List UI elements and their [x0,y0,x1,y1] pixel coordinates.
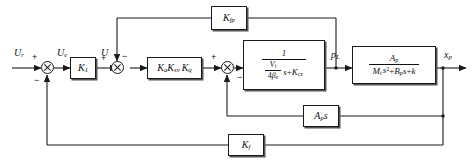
block-diagram: + − + − + − Ur Ue U pL xp K1 KaKsv Kq 1 … [0,0,472,163]
signal-label-u: U [101,48,108,58]
gain-ksv: K [167,62,174,73]
block-kfp-label: Kfp [223,13,235,24]
hydraulic-fraction: 1 Vt 4βe s+Kce [262,49,306,80]
gain-ksv-sub: sv [174,66,180,73]
mech-ap-sub: p [395,57,398,63]
hyd-kce-sub: ce [298,71,303,77]
signal-ue-sub: e [64,51,67,58]
block-kfp-feedback[interactable]: Kfp [211,6,247,30]
gain-kq-sub: q [188,66,191,73]
block-kfp-sub: fp [230,16,235,23]
block-k1-name: K [78,62,85,73]
node-xp-tap [441,66,444,69]
mech-k: k [412,65,416,75]
summing-junction-3 [221,61,234,74]
block-hydraulic-transfer-function[interactable]: 1 Vt 4βe s+Kce [243,40,325,90]
block-mechanical-transfer-function[interactable]: Ap Mts2+Bps+k [352,46,436,84]
block-k1-label: K1 [78,63,88,74]
block-k1-sub: 1 [85,66,88,73]
signal-label-ue: Ue [57,48,67,59]
block-servo-gain-label: KaKsv Kq [157,63,192,74]
block-aps-feedback[interactable]: Aps [303,105,339,127]
mechanical-numerator: Ap [369,54,418,65]
node-kf-tap [441,114,444,117]
signal-pl-sub: L [336,53,340,60]
block-kf-label: Kf [242,140,251,151]
block-servo-gain[interactable]: KaKsv Kq [147,57,202,79]
signal-label-xp: xp [444,50,452,61]
hydraulic-inner-den: 4βe [265,71,281,81]
summing-junction-2 [111,61,124,74]
mechanical-denominator: Mts2+Bps+k [369,65,418,77]
mech-mt-sub: t [380,70,382,76]
hydraulic-inner-fraction: Vt 4βe [265,61,281,81]
sum1-sign-bottom: − [34,76,39,85]
summing-junction-1 [41,61,54,74]
hyd-beta-sub: e [276,74,278,80]
hyd-vt-sub: t [275,63,277,69]
hydraulic-inner-num: Vt [265,61,281,71]
sum1-sign-left: + [32,53,37,62]
block-aps-s: s [324,110,328,121]
mechanical-fraction: Ap Mts2+Bps+k [369,54,418,76]
signal-label-ur: Ur [14,48,24,59]
block-k1[interactable]: K1 [70,57,96,79]
hydraulic-denominator: Vt 4βe s+Kce [262,60,306,81]
block-kf-sub: f [248,143,250,150]
sum3-sign-bottom: − [237,73,242,82]
block-kf-feedback[interactable]: Kf [228,134,264,156]
node-pl-tap [334,66,337,69]
mech-mt: M [372,65,380,75]
block-aps-label: Aps [314,111,327,122]
gain-ka: K [157,62,164,73]
block-kfp-name: K [223,12,230,23]
hydraulic-numerator: 1 [262,49,306,59]
sum3-sign-left: + [211,53,216,62]
signal-ur-sub: r [21,51,24,58]
sum2-sign-top: − [122,52,127,61]
signal-label-pl: pL [331,50,340,61]
signal-xp-sub: p [448,53,451,60]
